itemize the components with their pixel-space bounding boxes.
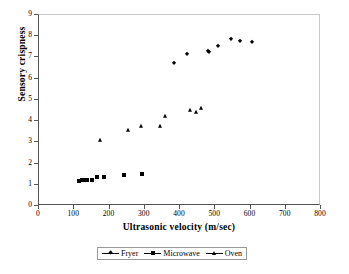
y-axis-tick-label: 2 <box>20 158 32 167</box>
y-axis-tick <box>34 163 38 164</box>
x-axis-tick-label: 300 <box>129 209 159 218</box>
x-axis-tick-label: 600 <box>235 209 265 218</box>
x-axis-title: Ultrasonic velocity (m/sec) <box>38 222 320 232</box>
y-axis-tick-label: 1 <box>20 179 32 188</box>
x-axis-tick-label: 100 <box>58 209 88 218</box>
plot-area <box>38 14 320 205</box>
y-axis-tick <box>34 35 38 36</box>
x-axis-tick-label: 200 <box>94 209 124 218</box>
x-axis-tick-label: 0 <box>23 209 53 218</box>
legend-label: Oven <box>225 249 242 258</box>
legend-entry-microwave[interactable]: Microwave <box>144 249 199 258</box>
x-axis-tick-label: 500 <box>199 209 229 218</box>
y-axis-tick <box>34 99 38 100</box>
x-axis-tick-label: 700 <box>270 209 300 218</box>
y-axis-title: Sensory crispness <box>17 27 27 102</box>
legend-label: Microwave <box>163 249 199 258</box>
x-axis-tick-label: 400 <box>164 209 194 218</box>
y-axis-tick <box>34 56 38 57</box>
square-marker-icon <box>144 249 161 258</box>
y-axis-tick <box>34 141 38 142</box>
y-axis-tick <box>34 14 38 15</box>
chart-legend: FryerMicrowaveOven <box>97 247 247 260</box>
y-axis-tick-label: 3 <box>20 136 32 145</box>
y-axis-tick-label: 0 <box>20 200 32 209</box>
x-axis-tick-label: 800 <box>305 209 335 218</box>
y-axis-tick <box>34 120 38 121</box>
triangle-marker-icon <box>206 249 223 258</box>
legend-entry-oven[interactable]: Oven <box>206 249 242 258</box>
legend-entry-fryer[interactable]: Fryer <box>102 249 138 258</box>
y-axis-title-wrapper: Sensory crispness <box>11 0 29 134</box>
y-axis-tick <box>34 78 38 79</box>
legend-label: Fryer <box>121 249 138 258</box>
diamond-marker-icon <box>102 249 119 258</box>
y-axis-tick <box>34 184 38 185</box>
chart-figure: 01002003004005006007008000123456789 Ultr… <box>0 0 349 274</box>
y-axis-tick <box>34 205 38 206</box>
